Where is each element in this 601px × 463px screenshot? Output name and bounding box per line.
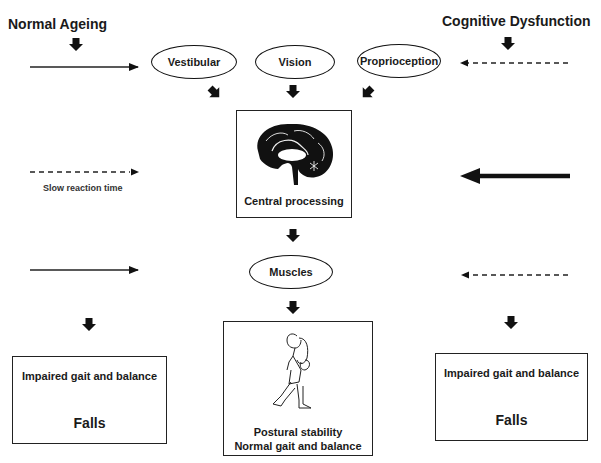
down-arrow-icon [69,38,83,51]
central-processing-box: Central processing [236,110,352,218]
down-arrow-icon [501,37,515,50]
right-outcome-box: Impaired gait and balance Falls [435,353,588,441]
falls-label: Falls [436,412,587,428]
falls-label: Falls [13,415,166,431]
normal-gait-label: Normal gait and balance [224,440,372,452]
postural-stability-box: Postural stability Normal gait and balan… [223,321,373,456]
postural-stability-label: Postural stability [224,426,372,438]
left-outcome-box: Impaired gait and balance Falls [12,356,167,444]
brain-icon [252,121,336,187]
vision-node: Vision [255,45,335,79]
vestibular-node: Vestibular [151,45,237,79]
impaired-gait-label: Impaired gait and balance [436,367,587,379]
walking-woman-icon [269,330,329,420]
muscles-node: Muscles [249,255,333,289]
proprioception-node: Proprioception [357,44,441,78]
impaired-gait-label: Impaired gait and balance [13,370,166,382]
slow-reaction-time-label: Slow reaction time [43,183,123,193]
central-processing-label: Central processing [237,195,351,207]
